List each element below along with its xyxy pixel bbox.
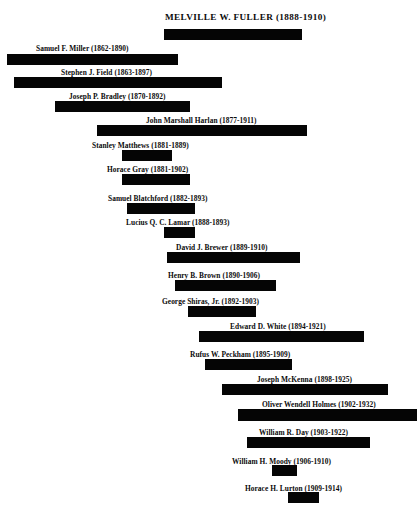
row-label-matthews: Stanley Matthews (1881-1889) — [92, 141, 189, 150]
timeline-bar-brown — [175, 280, 276, 291]
row-label-white: Edward D. White (1894-1921) — [230, 322, 326, 331]
timeline-bar-white — [199, 331, 364, 342]
row-label-harlan: John Marshall Harlan (1877-1911) — [146, 116, 257, 125]
row-label-bradley: Joseph P. Bradley (1870-1892) — [69, 92, 165, 101]
row-label-lamar: Lucius Q. C. Lamar (1888-1893) — [126, 218, 230, 227]
timeline-bar-lamar — [164, 227, 195, 238]
timeline-bar-bradley — [55, 101, 190, 112]
timeline-bar-peckham — [205, 359, 292, 370]
timeline-bar-day — [247, 437, 370, 448]
timeline-bar-fuller — [164, 29, 302, 40]
timeline-bar-lurton — [288, 492, 319, 503]
timeline-bar-harlan — [97, 125, 307, 136]
timeline-bar-blatchford — [127, 203, 195, 214]
timeline-bar-mckenna — [222, 384, 388, 395]
timeline-bar-miller — [7, 54, 178, 65]
chart-title: MELVILLE W. FULLER (1888-1910) — [165, 13, 326, 22]
timeline-bar-shiras — [188, 306, 256, 317]
timeline-bar-matthews — [122, 150, 172, 161]
row-label-holmes: Oliver Wendell Holmes (1902-1932) — [262, 400, 376, 409]
timeline-bar-field — [14, 77, 222, 88]
row-label-gray: Horace Gray (1881-1902) — [107, 165, 188, 174]
row-label-miller: Samuel F. Miller (1862-1890) — [36, 44, 129, 53]
row-label-peckham: Rufus W. Peckham (1895-1909) — [190, 350, 290, 359]
row-label-day: William R. Day (1903-1922) — [259, 428, 348, 437]
timeline-bar-brewer — [167, 252, 300, 263]
justices-timeline-chart: MELVILLE W. FULLER (1888-1910)Samuel F. … — [0, 0, 417, 519]
timeline-bar-holmes — [238, 409, 417, 421]
row-label-shiras: George Shiras, Jr. (1892-1903) — [162, 297, 259, 306]
row-label-brewer: David J. Brewer (1889-1910) — [176, 243, 267, 252]
row-label-field: Stephen J. Field (1863-1897) — [61, 68, 152, 77]
row-label-mckenna: Joseph McKenna (1898-1925) — [257, 375, 352, 384]
row-label-brown: Henry B. Brown (1890-1906) — [168, 271, 260, 280]
timeline-bar-gray — [122, 174, 190, 185]
timeline-bar-moody — [272, 465, 297, 476]
row-label-blatchford: Samuel Blatchford (1882-1893) — [108, 194, 208, 203]
